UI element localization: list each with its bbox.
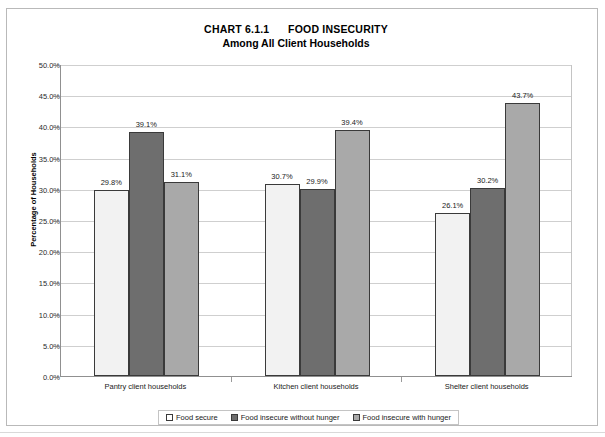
- page-bottom-rule: [0, 432, 605, 433]
- x-category-label: Pantry client households: [65, 382, 225, 391]
- legend-label: Food insecure without hunger: [241, 413, 340, 422]
- y-tick-mark: [53, 315, 59, 316]
- plot-area: 29.8%39.1%31.1%30.7%29.9%39.4%26.1%30.2%…: [60, 65, 572, 377]
- chart-title-block: CHART 6.1.1 FOOD INSECURITY Among All Cl…: [0, 22, 592, 50]
- y-tick-mark: [53, 127, 59, 128]
- y-tick-mark: [53, 65, 59, 66]
- bar[interactable]: 29.8%: [94, 190, 129, 376]
- bar-value-label: 43.7%: [512, 91, 533, 100]
- x-axis-line: [60, 376, 572, 377]
- bar-value-label: 39.1%: [136, 120, 157, 129]
- bar[interactable]: 26.1%: [435, 213, 470, 376]
- legend-item[interactable]: Food insecure with hunger: [353, 413, 451, 422]
- bar-value-label: 31.1%: [171, 170, 192, 179]
- bar[interactable]: 39.1%: [129, 132, 164, 376]
- y-tick-mark: [53, 377, 59, 378]
- y-tick-mark: [53, 346, 59, 347]
- bar-group: 30.7%29.9%39.4%: [265, 66, 370, 376]
- y-tick-mark: [53, 221, 59, 222]
- bar-value-label: 30.2%: [477, 176, 498, 185]
- bar-value-label: 30.7%: [271, 172, 292, 181]
- legend-swatch-icon: [231, 414, 238, 421]
- y-axis-line: [60, 65, 61, 377]
- legend-label: Food secure: [176, 413, 218, 422]
- legend-item[interactable]: Food insecure without hunger: [231, 413, 340, 422]
- bar[interactable]: 31.1%: [164, 182, 199, 376]
- y-tick-mark: [53, 159, 59, 160]
- bar[interactable]: 30.7%: [265, 184, 300, 376]
- legend-swatch-icon: [166, 414, 173, 421]
- x-axis-separator-tick: [231, 377, 232, 382]
- x-axis-separator-tick: [401, 377, 402, 382]
- y-tick-mark: [53, 252, 59, 253]
- bar-group: 26.1%30.2%43.7%: [435, 66, 540, 376]
- bar-value-label: 39.4%: [341, 118, 362, 127]
- chart-subtitle: Among All Client Households: [0, 36, 592, 50]
- chart-title: CHART 6.1.1 FOOD INSECURITY: [0, 22, 592, 36]
- x-category-label: Shelter client households: [407, 382, 567, 391]
- legend-item[interactable]: Food secure: [166, 413, 218, 422]
- bar-value-label: 29.9%: [306, 177, 327, 186]
- bar[interactable]: 30.2%: [470, 188, 505, 376]
- chart-legend: Food secureFood insecure without hungerF…: [158, 410, 459, 425]
- bar[interactable]: 43.7%: [505, 103, 540, 376]
- legend-label: Food insecure with hunger: [363, 413, 451, 422]
- y-axis-ticks: 0.0%5.0%10.0%15.0%20.0%25.0%30.0%35.0%40…: [0, 65, 60, 377]
- bar-value-label: 26.1%: [442, 201, 463, 210]
- legend-swatch-icon: [353, 414, 360, 421]
- y-tick-mark: [53, 283, 59, 284]
- bar-value-label: 29.8%: [101, 178, 122, 187]
- x-category-label: Kitchen client households: [236, 382, 396, 391]
- bar[interactable]: 29.9%: [300, 189, 335, 376]
- bar[interactable]: 39.4%: [335, 130, 370, 376]
- y-tick-mark: [53, 96, 59, 97]
- bar-group: 29.8%39.1%31.1%: [94, 66, 199, 376]
- y-tick-mark: [53, 190, 59, 191]
